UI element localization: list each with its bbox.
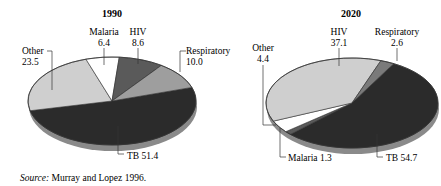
slice-label-other: Other23.5 [22, 46, 44, 67]
pie-1990: TB 51.4Other23.5Malaria6.4HIV8.6Respirat… [22, 27, 231, 161]
pie-2020: TB 54.7Malaria 1.3Other4.4HIV37.1Respira… [252, 27, 439, 163]
slice-label-tb: TB 51.4 [127, 151, 158, 161]
slice-label-line: 37.1 [331, 38, 348, 48]
slice-label-line: 8.6 [132, 38, 144, 48]
pie-chart-figure: 1990 2020 TB 51.4Other23.5Malaria6.4HIV8… [0, 0, 441, 186]
source-label: Source: [20, 173, 49, 183]
slice-label-malaria: Malaria6.4 [89, 27, 119, 48]
slice-label-line: Malaria 1.3 [288, 153, 332, 163]
slice-label-hiv: HIV37.1 [331, 27, 348, 48]
slice-label-hiv: HIV8.6 [130, 27, 147, 48]
slice-label-line: HIV [130, 27, 147, 37]
slice-label-respiratory: Respiratory10.0 [186, 46, 231, 67]
slice-label-line: 2.6 [391, 38, 403, 48]
slice-label-line: Malaria [89, 27, 119, 37]
slice-label-line: 23.5 [22, 57, 39, 67]
chart-title-2020: 2020 [341, 8, 361, 19]
slice-label-line: HIV [331, 27, 348, 37]
source-text: Murray and Lopez 1996. [49, 173, 146, 183]
slice-label-line: Respiratory [186, 46, 231, 56]
slice-label-line: TB 51.4 [127, 151, 158, 161]
slice-label-line: 4.4 [257, 54, 269, 64]
slice-label-respiratory: Respiratory2.6 [375, 27, 420, 48]
chart-title-1990: 1990 [102, 8, 122, 19]
slice-label-tb: TB 54.7 [386, 153, 417, 163]
source-note: Source: Murray and Lopez 1996. [20, 173, 146, 183]
slice-label-other: Other4.4 [252, 43, 274, 64]
slice-label-line: 6.4 [98, 38, 110, 48]
slice-label-line: Respiratory [375, 27, 420, 37]
slice-label-line: Other [252, 43, 274, 53]
slice-label-line: Other [22, 46, 44, 56]
slice-label-malaria: Malaria 1.3 [288, 153, 332, 163]
slice-label-line: 10.0 [186, 57, 203, 67]
slice-label-line: TB 54.7 [386, 153, 417, 163]
